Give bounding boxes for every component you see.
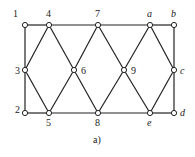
node-label-2: 2 <box>15 104 20 115</box>
node-label-8: 8 <box>95 117 100 128</box>
node-5 <box>46 110 51 115</box>
nodes <box>22 22 176 115</box>
node-9 <box>121 67 126 72</box>
node-label-e: e <box>147 117 152 128</box>
node-label-c: c <box>180 65 185 76</box>
node-e <box>147 110 152 115</box>
node-8 <box>95 110 100 115</box>
node-c <box>171 67 176 72</box>
edge-4-6 <box>49 25 74 70</box>
edge-9-e <box>124 70 150 113</box>
node-7 <box>95 22 100 27</box>
node-a <box>147 22 152 27</box>
edge-7-9 <box>98 25 124 70</box>
edge-c-e <box>150 70 174 113</box>
node-b <box>171 22 176 27</box>
node-label-b: b <box>171 8 176 19</box>
edge-9-8 <box>98 70 124 113</box>
node-label-a: a <box>147 8 152 19</box>
graph-diagram: 147ab369c258ed a) <box>0 0 195 157</box>
node-label-d: d <box>180 107 186 118</box>
edges <box>25 25 174 113</box>
edge-a-c <box>150 25 174 70</box>
node-label-5: 5 <box>46 117 51 128</box>
node-label-3: 3 <box>15 65 20 76</box>
node-d <box>171 110 176 115</box>
node-label-6: 6 <box>81 65 86 76</box>
edge-4-3 <box>25 25 49 70</box>
edge-6-5 <box>49 70 74 113</box>
caption: a) <box>93 134 101 146</box>
node-6 <box>71 67 76 72</box>
edge-7-6 <box>74 25 98 70</box>
node-label-7: 7 <box>95 8 100 19</box>
node-4 <box>46 22 51 27</box>
node-label-4: 4 <box>46 8 51 19</box>
edge-6-8 <box>74 70 98 113</box>
node-label-9: 9 <box>131 65 136 76</box>
edge-a-9 <box>124 25 150 70</box>
edge-3-5 <box>25 70 49 113</box>
node-1 <box>22 22 27 27</box>
node-label-1: 1 <box>13 8 18 19</box>
node-3 <box>22 67 27 72</box>
node-2 <box>22 110 27 115</box>
